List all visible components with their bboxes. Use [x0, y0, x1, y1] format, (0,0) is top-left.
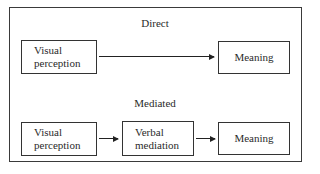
mediated-arrow-1	[99, 138, 118, 139]
node-label-line1: Visual	[34, 126, 80, 139]
direct-visual-perception-node: Visual perception	[21, 40, 97, 74]
direct-heading: Direct	[95, 17, 215, 29]
node-label-line2: perception	[34, 139, 80, 152]
node-label-line2: perception	[34, 57, 80, 70]
node-label-line2: mediation	[135, 139, 179, 152]
node-label-line1: Visual	[34, 44, 80, 57]
node-label-line1: Verbal	[135, 126, 179, 139]
direct-arrow	[99, 56, 214, 57]
mediated-verbal-mediation-node: Verbal mediation	[122, 121, 194, 156]
node-label: Meaning	[234, 51, 273, 64]
mediated-arrow-2	[196, 138, 215, 139]
mediated-visual-perception-node: Visual perception	[21, 122, 97, 156]
direct-meaning-node: Meaning	[218, 41, 290, 74]
mediated-meaning-node: Meaning	[218, 122, 290, 155]
node-label: Meaning	[234, 132, 273, 145]
mediated-heading: Mediated	[95, 97, 215, 109]
